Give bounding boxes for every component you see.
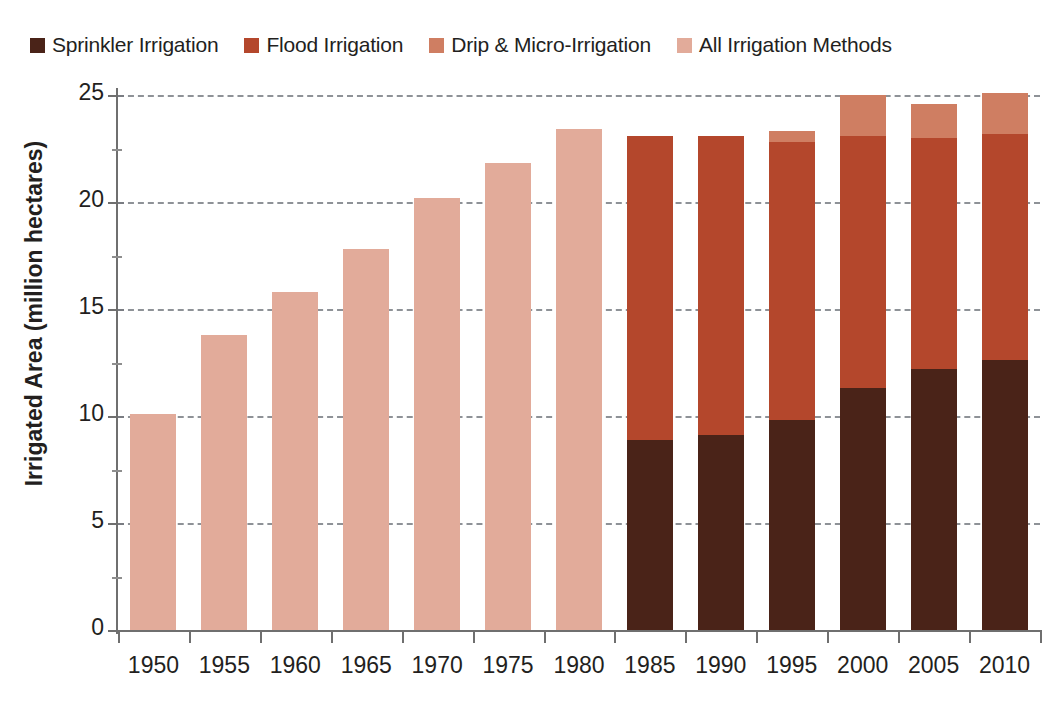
bar-segment-2000-flood-irrigation[interactable]: [840, 136, 886, 389]
legend-swatch-icon-flood-irrigation: [244, 38, 259, 53]
legend-swatch-icon-drip-and-micro-irrigation: [429, 38, 444, 53]
x-tick-mark-1980: [544, 630, 546, 643]
x-tick-mark-1990: [685, 630, 687, 643]
bar-segment-1980-all-irrigation-methods[interactable]: [556, 129, 602, 630]
bar-group-2005[interactable]: [911, 95, 957, 630]
bar-segment-1985-flood-irrigation[interactable]: [627, 136, 673, 440]
y-tick-label-15: 15: [44, 293, 104, 320]
legend-item-flood-irrigation[interactable]: Flood Irrigation: [244, 33, 403, 57]
x-tick-label-2010: 2010: [960, 652, 1050, 679]
bar-group-1960[interactable]: [272, 95, 318, 630]
x-tick-mark-end: [1040, 630, 1042, 643]
bar-segment-2000-drip-micro-irrigation[interactable]: [840, 95, 886, 136]
x-tick-mark-1985: [614, 630, 616, 643]
x-tick-mark-1975: [473, 630, 475, 643]
y-tick-label-25: 25: [44, 79, 104, 106]
legend-label-drip-and-micro-irrigation: Drip & Micro-Irrigation: [451, 33, 651, 57]
y-tick-mark-0: [108, 630, 124, 632]
bar-segment-1990-sprinkler-irrigation[interactable]: [698, 435, 744, 630]
x-tick-mark-1995: [756, 630, 758, 643]
bar-group-1980[interactable]: [556, 95, 602, 630]
bar-group-1955[interactable]: [201, 95, 247, 630]
y-tick-label-0: 0: [44, 614, 104, 641]
x-tick-mark-2005: [898, 630, 900, 643]
bar-segment-2005-flood-irrigation[interactable]: [911, 138, 957, 369]
bar-segment-1960-all-irrigation-methods[interactable]: [272, 292, 318, 630]
bar-group-1965[interactable]: [343, 95, 389, 630]
x-tick-mark-2010: [969, 630, 971, 643]
legend-label-all-irrigation-methods: All Irrigation Methods: [699, 33, 892, 57]
x-tick-mark-1950: [118, 630, 120, 643]
bar-segment-2010-drip-micro-irrigation[interactable]: [982, 93, 1028, 134]
x-tick-mark-1970: [402, 630, 404, 643]
bar-group-1950[interactable]: [130, 95, 176, 630]
legend-label-flood-irrigation: Flood Irrigation: [266, 33, 403, 57]
x-tick-mark-2000: [827, 630, 829, 643]
bar-segment-1995-sprinkler-irrigation[interactable]: [769, 420, 815, 630]
bar-segment-1970-all-irrigation-methods[interactable]: [414, 198, 460, 630]
irrigated-area-stacked-bar-chart: Sprinkler Irrigation Flood Irrigation Dr…: [0, 0, 1054, 704]
bar-segment-1975-all-irrigation-methods[interactable]: [485, 163, 531, 630]
bar-group-2000[interactable]: [840, 95, 886, 630]
bar-segment-1990-flood-irrigation[interactable]: [698, 136, 744, 436]
chart-legend: Sprinkler Irrigation Flood Irrigation Dr…: [0, 28, 1054, 62]
legend-item-all-irrigation-methods[interactable]: All Irrigation Methods: [677, 33, 892, 57]
y-tick-label-10: 10: [44, 400, 104, 427]
legend-item-sprinkler-irrigation[interactable]: Sprinkler Irrigation: [30, 33, 218, 57]
bar-segment-2005-sprinkler-irrigation[interactable]: [911, 369, 957, 630]
bar-segment-1995-flood-irrigation[interactable]: [769, 142, 815, 420]
y-tick-label-5: 5: [44, 507, 104, 534]
x-tick-mark-1955: [189, 630, 191, 643]
bar-segment-1965-all-irrigation-methods[interactable]: [343, 249, 389, 630]
legend-swatch-icon-all-irrigation-methods: [677, 38, 692, 53]
bar-group-1975[interactable]: [485, 95, 531, 630]
bar-segment-1985-sprinkler-irrigation[interactable]: [627, 440, 673, 630]
x-tick-mark-1965: [331, 630, 333, 643]
bar-group-2010[interactable]: [982, 95, 1028, 630]
bar-segment-1950-all-irrigation-methods[interactable]: [130, 414, 176, 630]
legend-item-drip-and-micro-irrigation[interactable]: Drip & Micro-Irrigation: [429, 33, 651, 57]
bar-group-1995[interactable]: [769, 95, 815, 630]
bar-segment-2010-sprinkler-irrigation[interactable]: [982, 360, 1028, 630]
bar-segment-2010-flood-irrigation[interactable]: [982, 134, 1028, 361]
plot-area: [118, 95, 1040, 630]
x-axis-line: [116, 630, 1042, 632]
bar-segment-2000-sprinkler-irrigation[interactable]: [840, 388, 886, 630]
bar-segment-2005-drip-micro-irrigation[interactable]: [911, 104, 957, 138]
bar-group-1985[interactable]: [627, 95, 673, 630]
bar-group-1970[interactable]: [414, 95, 460, 630]
bar-segment-1995-drip-micro-irrigation[interactable]: [769, 131, 815, 142]
legend-label-sprinkler-irrigation: Sprinkler Irrigation: [52, 33, 218, 57]
y-tick-label-20: 20: [44, 186, 104, 213]
bar-group-1990[interactable]: [698, 95, 744, 630]
bar-segment-1955-all-irrigation-methods[interactable]: [201, 335, 247, 630]
x-tick-mark-1960: [260, 630, 262, 643]
